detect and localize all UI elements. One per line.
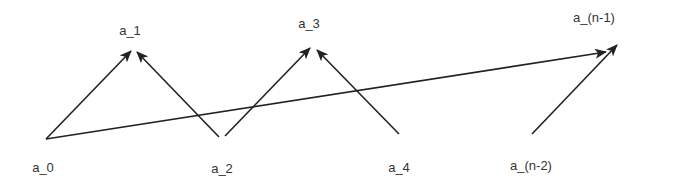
node-a4: a_4	[388, 161, 410, 174]
edge-a4-to-a3	[317, 50, 399, 134]
edge-a2-to-a3	[225, 48, 310, 136]
node-a0: a_0	[32, 161, 54, 174]
edge-a2-to-a1	[137, 52, 219, 137]
node-a-n-minus-1: a_(n-1)	[573, 11, 615, 24]
edge-a0-to-a1	[46, 51, 131, 139]
edge-a0-to-an1	[46, 52, 606, 139]
diagram-canvas: a_0 a_1 a_2 a_3 a_4 a_(n-1) a_(n-2)	[0, 0, 683, 194]
node-a2: a_2	[211, 162, 233, 175]
node-a1: a_1	[119, 24, 141, 37]
edges-layer	[0, 0, 683, 194]
node-a3: a_3	[298, 17, 320, 30]
node-a-n-minus-2: a_(n-2)	[510, 159, 552, 172]
edge-an2-to-an1	[532, 45, 617, 134]
